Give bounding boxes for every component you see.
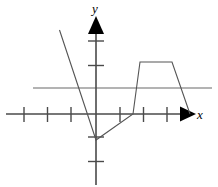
piecewise-graph-curve: [60, 30, 191, 140]
graph-figure: y x: [0, 0, 218, 187]
y-axis-arrow-icon: [88, 16, 104, 34]
y-axis-label: y: [92, 2, 98, 15]
x-axis-label: x: [197, 108, 203, 121]
plot-canvas: [0, 0, 218, 187]
